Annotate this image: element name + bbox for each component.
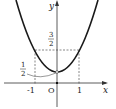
fraction-one-half-den: 2: [21, 70, 25, 78]
fraction-one-half-num: 1: [21, 61, 25, 69]
parabola-graph: y x O -1 1 3 2 1 2: [0, 0, 116, 109]
origin-point: [56, 82, 58, 84]
vertex-point: [56, 71, 59, 74]
origin-label: O: [48, 86, 55, 95]
y-axis-label: y: [48, 1, 55, 11]
x-tick-minus-one: -1: [27, 86, 35, 95]
leader-line-one-half: [27, 73, 56, 77]
x-tick-one: 1: [77, 86, 82, 95]
x-axis-label: x: [103, 85, 108, 95]
fraction-three-halves-num: 3: [49, 31, 53, 39]
y-axis-arrow-icon: [55, 0, 59, 6]
fraction-three-halves-den: 2: [49, 40, 53, 48]
